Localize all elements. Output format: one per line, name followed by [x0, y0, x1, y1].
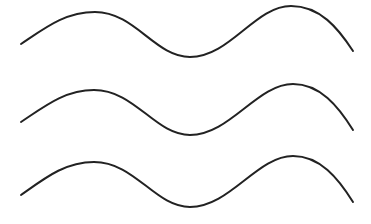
wave-line-2	[21, 84, 353, 135]
wave-line-3	[21, 156, 353, 207]
wave-line-1	[21, 6, 353, 57]
waves-figure	[0, 0, 371, 224]
waves-icon	[0, 0, 371, 224]
